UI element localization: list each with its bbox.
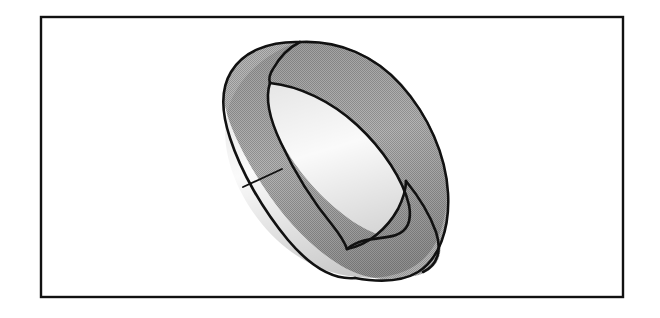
mobius-strip-figure: [0, 0, 660, 318]
figure-canvas: Mobius strip: [0, 0, 660, 318]
mobius-band: [200, 20, 480, 300]
